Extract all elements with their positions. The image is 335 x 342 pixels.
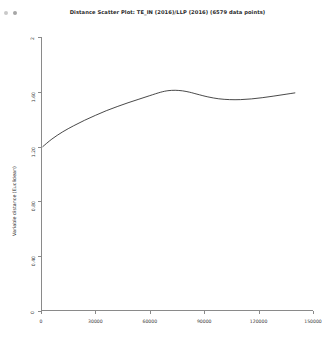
- x-tick: [41, 311, 42, 314]
- chart-figure: 00.400.801.201.602 030000600009000012000…: [0, 26, 335, 342]
- x-tick: [313, 311, 314, 314]
- y-tick-label: 0.40: [31, 256, 36, 266]
- x-tick-label: 90000: [197, 319, 212, 324]
- x-tick: [204, 311, 205, 314]
- x-tick: [95, 311, 96, 314]
- window-title: Distance Scatter Plot: TE_IN (2016)/LLP …: [0, 9, 335, 15]
- x-tick-label: 60000: [142, 319, 157, 324]
- x-tick-label: 150000: [304, 319, 322, 324]
- y-axis-title: Variable distance (Euclidean): [12, 166, 17, 236]
- x-tick: [259, 311, 260, 314]
- chart-axes: 00.400.801.201.602 030000600009000012000…: [41, 37, 313, 311]
- window-titlebar: Distance Scatter Plot: TE_IN (2016)/LLP …: [0, 0, 335, 26]
- y-tick-label: 2: [31, 37, 36, 40]
- y-tick-label: 1.60: [31, 92, 36, 102]
- y-tick-label: 0.80: [31, 201, 36, 211]
- x-tick-label: 30000: [88, 319, 103, 324]
- x-tick-label: 120000: [250, 319, 268, 324]
- x-tick: [150, 311, 151, 314]
- y-tick-label: 1.20: [31, 147, 36, 157]
- x-tick-label: 0: [40, 319, 43, 324]
- app-root: Distance Scatter Plot: TE_IN (2016)/LLP …: [0, 0, 335, 342]
- y-tick-label: 0: [31, 311, 36, 314]
- data-series-line: [41, 37, 313, 311]
